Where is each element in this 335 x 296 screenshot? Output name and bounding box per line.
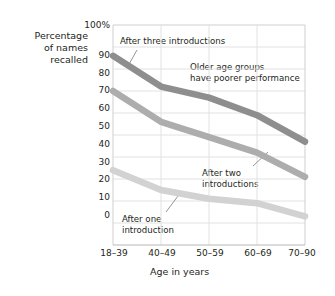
plot-canvas — [0, 0, 335, 296]
chart-figure: Percentage of names recalled Age in year… — [0, 0, 335, 296]
